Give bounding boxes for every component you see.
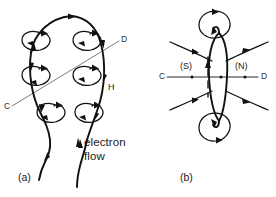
panel-b-orbit-top bbox=[199, 9, 230, 39]
panel-b-orbit-bottom bbox=[199, 113, 230, 144]
panel-b-axis-end-label: D bbox=[261, 72, 267, 81]
panel-b-north-pole-label: (N) bbox=[235, 62, 248, 71]
panel-b-caption: (b) bbox=[180, 172, 193, 183]
figure-drawing bbox=[0, 0, 276, 197]
field-orbit-lower-right bbox=[75, 102, 103, 123]
field-orbit-mid-left bbox=[22, 65, 50, 86]
figure-container: C D H electron flow (a) C D (S) (N) (b) bbox=[0, 0, 276, 197]
field-orbit-mid-right bbox=[73, 65, 101, 86]
panel-a-flow-label-line2: flow bbox=[84, 150, 105, 162]
panel-b-field-lines bbox=[170, 42, 268, 110]
panel-a-field-label: H bbox=[108, 83, 115, 92]
panel-b-axis-start-label: C bbox=[159, 72, 165, 81]
panel-b-south-pole-label: (S) bbox=[180, 62, 192, 71]
panel-b-drawing bbox=[167, 9, 268, 144]
panel-a-caption: (a) bbox=[18, 172, 31, 183]
panel-a-axis-start-label: C bbox=[4, 102, 10, 111]
panel-a-flow-label-line1: electron bbox=[84, 136, 126, 148]
panel-a-axis-end-label: D bbox=[121, 35, 127, 44]
field-orbit-upper-right bbox=[73, 30, 101, 51]
